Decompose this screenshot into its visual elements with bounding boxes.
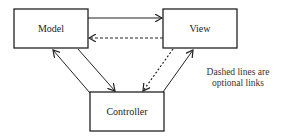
edge-model-to-controller — [78, 49, 115, 91]
note-line-2: optional links — [212, 78, 264, 88]
controller-node: Controller — [90, 92, 164, 131]
view-node: View — [163, 9, 237, 48]
view-label: View — [189, 23, 211, 34]
diagram-svg: Model View Controller Dashed lines are o… — [0, 0, 288, 140]
note-line-1: Dashed lines are — [207, 67, 270, 77]
controller-label: Controller — [106, 106, 148, 117]
legend-note: Dashed lines are optional links — [207, 67, 270, 88]
mvc-diagram: Model View Controller Dashed lines are o… — [0, 0, 288, 140]
model-node: Model — [14, 9, 88, 48]
model-label: Model — [38, 23, 64, 34]
